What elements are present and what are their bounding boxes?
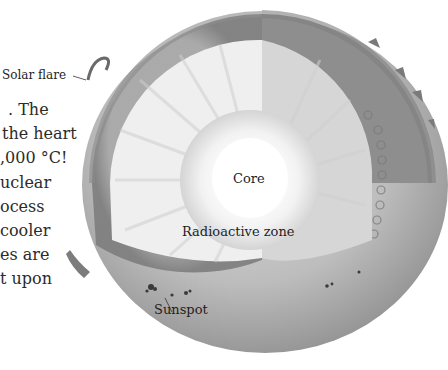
label-core: Core (233, 172, 265, 185)
body-line-2: the heart (2, 126, 77, 142)
solar-flare-leader (73, 76, 86, 80)
sun-diagram: . The the heart ,000 °C! uclear ocess co… (0, 0, 448, 370)
label-solar-flare: Solar flare (2, 69, 66, 81)
body-line-7: es are (0, 247, 49, 263)
body-line-4: uclear (0, 175, 51, 191)
sun-cross-section-illustration (0, 0, 448, 370)
body-line-5: ocess (0, 199, 44, 215)
lower-flare (66, 250, 90, 278)
label-sunspot: Sunspot (154, 303, 208, 316)
body-line-8: t upon (0, 271, 52, 287)
solar-flare (88, 58, 109, 80)
body-line-6: cooler (0, 223, 50, 239)
body-line-3: ,000 °C! (0, 150, 67, 166)
label-radiative-zone: Radioactive zone (182, 225, 294, 238)
body-line-1: . The (8, 102, 49, 118)
